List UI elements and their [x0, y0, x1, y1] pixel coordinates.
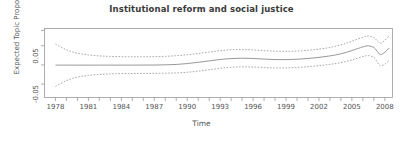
y-tick-label: 0.05: [32, 45, 40, 67]
x-tick-label: 1981: [79, 103, 97, 111]
x-tick-label: 1999: [277, 103, 295, 111]
plot-area: [0, 0, 403, 143]
chart-figure: Institutional reform and social justice …: [0, 0, 403, 143]
x-tick-label: 1990: [178, 103, 196, 111]
x-tick-label: 1984: [112, 103, 130, 111]
x-tick-label: 1996: [244, 103, 262, 111]
x-tick-label: 1987: [145, 103, 163, 111]
x-tick-label: 1978: [47, 103, 65, 111]
series-lower-95ci: [55, 56, 389, 87]
x-tick-label: 2005: [343, 103, 361, 111]
series-upper-95ci: [55, 36, 389, 57]
x-tick-label: 2002: [310, 103, 328, 111]
plot-box: [45, 29, 393, 98]
y-tick-label: -0.05: [32, 83, 40, 105]
x-tick-label: 1993: [211, 103, 229, 111]
x-tick-label: 2008: [376, 103, 394, 111]
series-estimate: [55, 46, 389, 65]
